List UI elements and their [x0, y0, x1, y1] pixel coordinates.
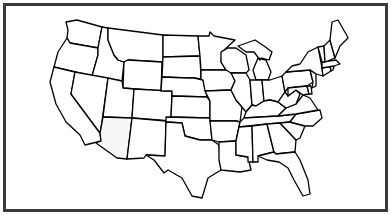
- state-wyoming[interactable]: [123, 60, 162, 91]
- state-montana[interactable]: [108, 28, 163, 62]
- state-south-dakota[interactable]: [162, 56, 201, 79]
- state-new-mexico[interactable]: [127, 118, 166, 159]
- state-arizona[interactable]: [96, 117, 132, 159]
- us-map: [0, 0, 391, 215]
- state-north-dakota[interactable]: [163, 35, 200, 57]
- state-colorado[interactable]: [132, 89, 172, 121]
- state-kansas[interactable]: [171, 96, 210, 118]
- state-florida[interactable]: [258, 152, 310, 196]
- state-iowa[interactable]: [201, 70, 235, 91]
- state-arkansas[interactable]: [210, 121, 240, 142]
